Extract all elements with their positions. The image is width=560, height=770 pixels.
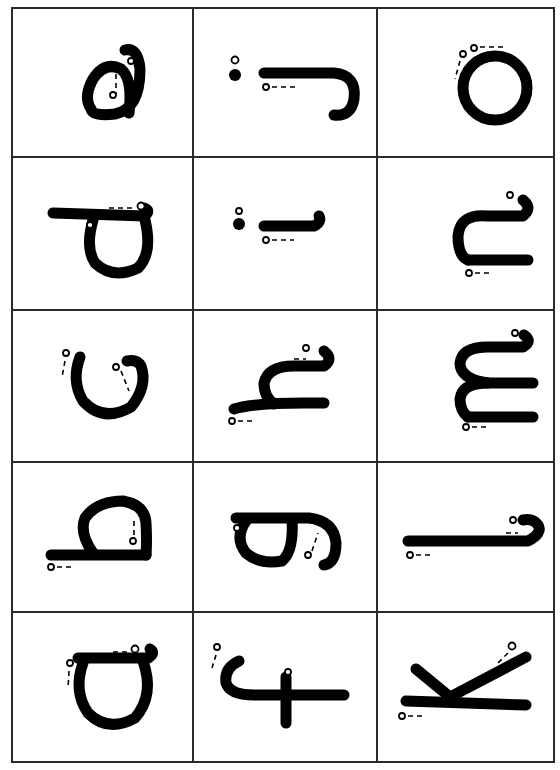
letter-f-glyph [194,613,376,763]
letter-card-a: a [13,613,192,763]
letter-i-glyph [194,158,376,309]
letter-card-c: c [13,311,192,461]
letter-card-d: d [13,158,192,309]
letter-card-o: o [378,9,555,156]
letter-card-j: j [194,9,376,156]
letter-e-glyph [13,9,192,156]
letter-card-k: k [378,613,555,763]
letter-h-glyph [194,311,376,461]
letter-a-glyph [13,613,192,763]
letter-card-e: e [13,9,192,156]
letter-card-b: b [13,463,192,611]
letter-card-h: h [194,311,376,461]
letter-card-i: i [194,158,376,309]
letter-k-glyph [378,613,555,763]
letter-card-g: g [194,463,376,611]
letter-card-l: l [378,463,555,611]
letter-m-glyph [378,311,555,461]
letter-l-glyph [378,463,555,611]
letter-card-m: m [378,311,555,461]
letter-card-f: f [194,613,376,763]
letter-j-glyph [194,9,376,156]
letter-b-glyph [13,463,192,611]
letter-o-glyph [378,9,555,156]
letter-n-glyph [378,158,555,309]
letter-d-glyph [13,158,192,309]
letter-g-glyph [194,463,376,611]
letter-card-n: n [378,158,555,309]
letter-c-glyph [13,311,192,461]
